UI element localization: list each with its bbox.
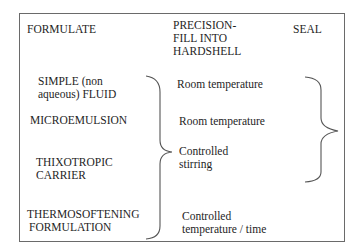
right-brace-icon [305, 77, 338, 182]
left-brace-icon [146, 76, 172, 239]
braces-layer [0, 0, 362, 252]
